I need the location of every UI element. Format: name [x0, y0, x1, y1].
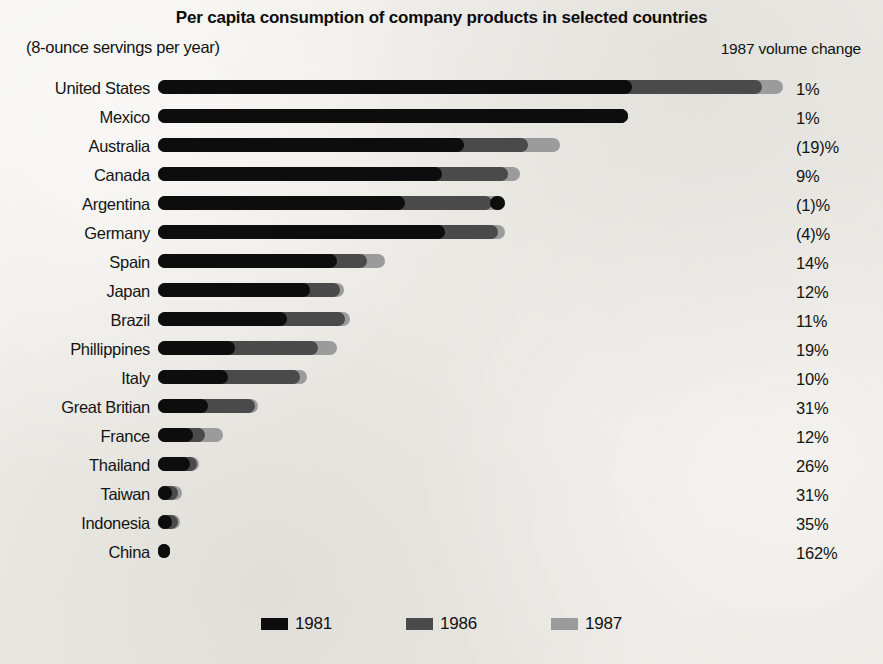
- chart-row: Great Britian31%: [0, 397, 883, 426]
- bar-segment-1981: [158, 283, 310, 297]
- bar-segment-1981: [158, 457, 190, 471]
- country-label: China: [0, 542, 150, 562]
- country-label: Japan: [0, 281, 150, 301]
- bar-segment-1981: [158, 167, 442, 181]
- bar-segment-1981: [158, 399, 208, 413]
- chart-row: Australia(19)%: [0, 136, 883, 165]
- country-label: Italy: [0, 368, 150, 388]
- chart-row: Indonesia35%: [0, 513, 883, 542]
- volume-change-value: 19%: [796, 340, 828, 360]
- volume-change-value: 26%: [796, 456, 828, 476]
- country-label: Phillippines: [0, 339, 150, 359]
- chart-row: Argentina(1)%: [0, 194, 883, 223]
- volume-change-value: 1%: [796, 79, 819, 99]
- bar-group: [158, 109, 628, 123]
- units-subtitle: (8-ounce servings per year): [26, 38, 220, 57]
- legend-entry: 1987: [551, 614, 622, 634]
- bar-segment-1981: [158, 312, 287, 326]
- volume-change-value: 1%: [796, 108, 819, 128]
- legend-swatch-icon: [551, 618, 578, 630]
- country-label: Great Britian: [0, 397, 150, 417]
- volume-change-value: 11%: [796, 311, 827, 331]
- volume-change-value: (4)%: [796, 224, 830, 244]
- bar-group: [158, 341, 337, 355]
- bar-group: [158, 225, 505, 239]
- bar-group: [158, 515, 180, 529]
- bar-group: [158, 370, 307, 384]
- country-label: Thailand: [0, 455, 150, 475]
- chart-row: France12%: [0, 426, 883, 455]
- volume-change-value: 9%: [796, 166, 819, 186]
- volume-change-value: 35%: [796, 514, 828, 534]
- bar-group: [158, 486, 182, 500]
- bar-segment-1981: [158, 80, 632, 94]
- chart-rows-container: United States1%Mexico1%Australia(19)%Can…: [0, 78, 883, 571]
- bar-segment-1981: [158, 544, 170, 558]
- bar-segment-1981: [158, 225, 445, 239]
- bar-segment-1981: [158, 486, 172, 500]
- bar-group: [158, 167, 520, 181]
- chart-legend: 198119861987: [0, 614, 883, 634]
- bar-group: [158, 254, 385, 268]
- volume-change-value: 12%: [796, 427, 828, 447]
- country-label: Taiwan: [0, 484, 150, 504]
- chart-row: Phillippines19%: [0, 339, 883, 368]
- bar-group: [158, 138, 560, 152]
- volume-change-value: (19)%: [796, 137, 839, 157]
- chart-row: Canada9%: [0, 165, 883, 194]
- bar-group: [158, 428, 223, 442]
- volume-change-value: 10%: [796, 369, 828, 389]
- chart-row: China162%: [0, 542, 883, 571]
- bar-segment-1981: [158, 370, 228, 384]
- country-label: Mexico: [0, 107, 150, 127]
- volume-change-value: 31%: [796, 485, 828, 505]
- bar-segment-1981: [158, 109, 628, 123]
- legend-entry: 1986: [406, 614, 477, 634]
- chart-row: Japan12%: [0, 281, 883, 310]
- bar-group: [158, 283, 344, 297]
- bar-group: [158, 457, 199, 471]
- chart-row: Brazil11%: [0, 310, 883, 339]
- bar-segment-tip-1981: [490, 196, 505, 210]
- bar-segment-tip-1981: [613, 109, 628, 123]
- chart-row: Spain14%: [0, 252, 883, 281]
- country-label: Argentina: [0, 194, 150, 214]
- volume-change-value: 162%: [796, 543, 837, 563]
- bar-group: [158, 80, 783, 94]
- country-label: Brazil: [0, 310, 150, 330]
- bar-segment-1981: [158, 254, 337, 268]
- volume-change-value: 12%: [796, 282, 828, 302]
- legend-swatch-icon: [261, 618, 288, 630]
- country-label: Australia: [0, 136, 150, 156]
- legend-label: 1987: [585, 614, 622, 634]
- volume-change-value: 31%: [796, 398, 828, 418]
- bar-segment-1981: [158, 196, 405, 210]
- bar-group: [158, 312, 350, 326]
- country-label: France: [0, 426, 150, 446]
- volume-change-value: (1)%: [796, 195, 830, 215]
- legend-label: 1986: [440, 614, 477, 634]
- chart-row: Thailand26%: [0, 455, 883, 484]
- chart-row: Germany(4)%: [0, 223, 883, 252]
- country-label: Germany: [0, 223, 150, 243]
- chart-row: Italy10%: [0, 368, 883, 397]
- chart-row: United States1%: [0, 78, 883, 107]
- bar-group: [158, 544, 170, 558]
- bar-segment-1981: [158, 341, 235, 355]
- chart-row: Mexico1%: [0, 107, 883, 136]
- bar-segment-1981: [158, 428, 193, 442]
- bar-segment-1981: [158, 515, 172, 529]
- country-label: Indonesia: [0, 513, 150, 533]
- country-label: Spain: [0, 252, 150, 272]
- bar-group: [158, 399, 258, 413]
- volume-change-column-header: 1987 volume change: [721, 40, 861, 58]
- page-title: Per capita consumption of company produc…: [0, 8, 883, 28]
- legend-entry: 1981: [261, 614, 332, 634]
- chart-figure: Per capita consumption of company produc…: [0, 0, 883, 664]
- country-label: Canada: [0, 165, 150, 185]
- legend-swatch-icon: [406, 618, 433, 630]
- bar-group: [158, 196, 505, 210]
- country-label: United States: [0, 78, 150, 98]
- volume-change-value: 14%: [796, 253, 828, 273]
- bar-segment-1981: [158, 138, 464, 152]
